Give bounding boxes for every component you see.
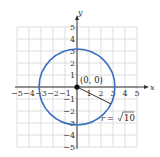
- x-tick-label: −4: [23, 89, 35, 98]
- y-tick-label: 2: [70, 59, 75, 68]
- x-axis-label: x: [150, 83, 155, 92]
- radius-annotation-radicand: 10: [124, 113, 135, 123]
- y-tick-label: −1: [63, 95, 75, 104]
- radius-annotation-prefix: r =: [101, 114, 114, 123]
- circle-graph: −5−4−3−2−11234554321−1−2−3−4−5 (0, 0) x …: [0, 0, 160, 157]
- x-tick-label: 4: [122, 89, 127, 98]
- x-tick-label: 2: [98, 89, 103, 98]
- center-point-label: (0, 0): [80, 75, 103, 85]
- x-tick-label: −2: [47, 89, 59, 98]
- y-axis-label: y: [77, 8, 83, 17]
- y-tick-label: 3: [70, 47, 75, 56]
- y-tick-label: 4: [70, 35, 75, 44]
- y-tick-label: −2: [63, 107, 75, 116]
- y-tick-label: −5: [63, 143, 75, 152]
- y-tick-label: 5: [70, 23, 75, 32]
- y-tick-label: 1: [70, 71, 75, 80]
- radius-segment: [77, 87, 111, 104]
- center-point: [74, 84, 79, 89]
- x-tick-label: −5: [11, 89, 23, 98]
- x-tick-label: 5: [134, 89, 139, 98]
- x-axis-arrow: [144, 85, 149, 89]
- y-tick-label: −4: [63, 131, 75, 140]
- radius-annotation: r = 10: [101, 112, 135, 123]
